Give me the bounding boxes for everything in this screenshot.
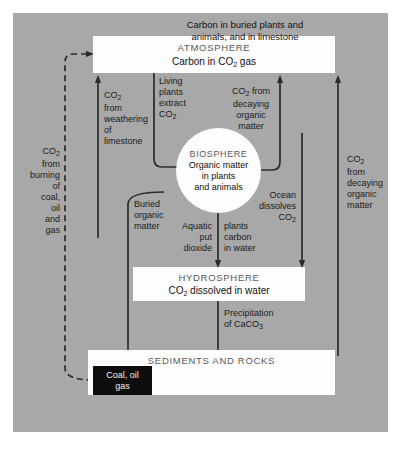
- label-decaying-left: CO2 from decaying organic matter: [221, 86, 281, 132]
- label-decaying-right: CO2 from decaying organic matter: [347, 154, 397, 211]
- hydrosphere-header: HYDROSPHERE: [133, 272, 305, 283]
- carbon-cycle-diagram: ATMOSPHERE Carbon in CO2 gas BIOSPHERE O…: [0, 0, 402, 449]
- coal-oil-gas-box: Coal, oil gas: [93, 366, 152, 395]
- label-precipitation: Precipitation of CaCO3: [224, 308, 298, 332]
- label-ocean: Ocean dissolves CO2: [240, 190, 296, 225]
- hydrosphere-body: CO2 dissolved in water: [133, 285, 305, 297]
- hydrosphere-box: HYDROSPHERE CO2 dissolved in water: [133, 267, 305, 301]
- atmosphere-header: ATMOSPHERE: [93, 42, 335, 53]
- label-aquatic-left: Aquatic put dioxide: [160, 221, 212, 254]
- biosphere-header: BIOSPHERE: [190, 149, 248, 159]
- label-burning: CO2 from burning of coal, oil and gas: [8, 146, 60, 236]
- arrow-burning-dashed: [65, 54, 93, 380]
- label-living-plants: Living plants extract CO2: [159, 76, 211, 122]
- sediments-body: Carbon in buried plants and animals, and…: [155, 19, 335, 43]
- label-weathering: CO2 from weathering of limestone: [104, 90, 162, 147]
- biosphere-body: Organic matter in plants and animals: [189, 160, 249, 193]
- atmosphere-body: Carbon in CO2 gas: [93, 56, 335, 68]
- label-aquatic-right: plants carbon in water: [224, 221, 276, 254]
- sediments-header: SEDIMENTS AND ROCKS: [88, 355, 335, 366]
